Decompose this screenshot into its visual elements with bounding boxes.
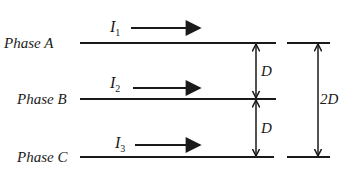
- current-i2-label: I2: [109, 74, 120, 94]
- phase-c-label: Phase C: [16, 149, 68, 165]
- three-phase-conductor-diagram: Phase A I1 Phase B I2 Phase C I3 D D 2D: [0, 0, 355, 170]
- phase-b-label: Phase B: [16, 91, 67, 107]
- phase-c: Phase C I3: [16, 134, 274, 165]
- current-i3-label: I3: [114, 134, 125, 154]
- phase-a: Phase A I1: [3, 18, 276, 51]
- dimension-bc: D: [256, 100, 272, 156]
- phase-a-label: Phase A: [3, 35, 54, 51]
- current-i1-label: I1: [109, 18, 120, 38]
- dimension-bc-label: D: [260, 120, 272, 136]
- dimension-ac-label: 2D: [320, 91, 339, 107]
- dimension-ab: D: [256, 44, 272, 98]
- dimension-ac: 2D: [287, 43, 339, 157]
- phase-b: Phase B I2: [16, 74, 276, 107]
- dimension-ab-label: D: [260, 63, 272, 79]
